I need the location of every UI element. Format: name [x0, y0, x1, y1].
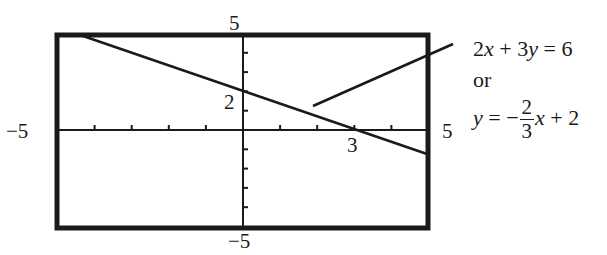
fraction-denominator: 3: [520, 120, 535, 142]
var-y: y: [528, 36, 538, 61]
var-y: y: [473, 105, 483, 130]
y-min-label: −5: [228, 231, 250, 252]
equals-minus: = −: [483, 105, 519, 130]
y-intercept-label: 2: [224, 92, 235, 113]
fraction-numerator: 2: [520, 97, 535, 120]
x-max-label: 5: [442, 121, 453, 142]
constant-c: 6: [561, 36, 572, 61]
plus-sign: +: [494, 36, 517, 61]
x-intercept-label: 3: [347, 135, 358, 156]
var-x: x: [535, 105, 545, 130]
coef-a: 2: [473, 36, 484, 61]
coef-b: 3: [517, 36, 528, 61]
intercept-term: + 2: [545, 105, 579, 130]
y-max-label: 5: [229, 13, 240, 34]
slope-fraction: 23: [520, 97, 535, 142]
equation-standard-form: 2x + 3y = 6: [473, 38, 572, 60]
x-min-label: −5: [6, 121, 28, 142]
equation-slope-intercept-form: y = −23x + 2: [473, 97, 579, 142]
equals-sign: =: [538, 36, 561, 61]
var-x: x: [484, 36, 494, 61]
pointer-line: [313, 44, 453, 106]
graph-line: [83, 36, 427, 154]
equation-connector: or: [473, 69, 491, 91]
